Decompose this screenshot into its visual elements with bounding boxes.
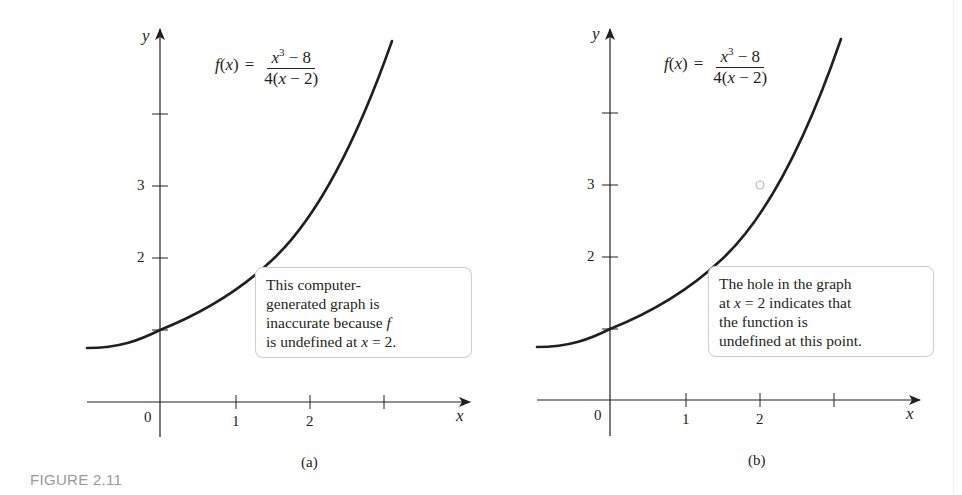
panel-b-hole-marker <box>756 181 764 189</box>
panel-a-caption: (a) <box>301 454 318 471</box>
panel-a-x-tick-0: 0 <box>144 409 152 426</box>
panel-b-axes <box>537 29 920 436</box>
panel-a-annotation-box: This computer- generated graph is inaccu… <box>255 267 472 358</box>
panel-a-axes <box>87 29 470 437</box>
panel-a-x-tick-1: 1 <box>232 413 240 430</box>
panel-b-x-tick-0: 0 <box>594 407 602 424</box>
panel-a-function-label: f(x) = x3 − 8 4(x − 2) <box>215 43 322 88</box>
figure-number-label: FIGURE 2.11 <box>30 471 122 488</box>
panel-b-x-axis-label: x <box>906 404 914 424</box>
panel-b-y-tick-2: 2 <box>587 248 595 265</box>
panel-b-caption: (b) <box>748 452 766 469</box>
panel-b-y-tick-3: 3 <box>587 176 595 193</box>
panel-a-y-axis-label: y <box>142 26 150 46</box>
panel-a-x-axis-label: x <box>456 406 464 426</box>
panel-b-function-label: f(x) = x3 − 8 4(x − 2) <box>664 42 771 87</box>
panel-a-x-tick-2: 2 <box>306 413 314 430</box>
panel-a-y-tick-3: 3 <box>137 177 145 194</box>
panel-b-x-tick-1: 1 <box>682 411 690 428</box>
panel-b-annotation-box: The hole in the graph at x = 2 indicates… <box>708 266 934 357</box>
panel-a-y-tick-2: 2 <box>137 249 145 266</box>
panel-b-y-axis-label: y <box>592 24 600 44</box>
panel-b-x-tick-2: 2 <box>756 411 764 428</box>
